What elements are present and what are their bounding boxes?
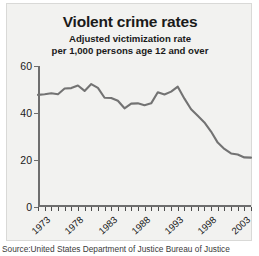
- x-axis-tick-label: 1983: [96, 214, 119, 236]
- x-axis-tick: [224, 207, 225, 211]
- x-axis-tick: [65, 207, 66, 211]
- x-axis-tick-label: 1973: [29, 214, 52, 236]
- chart-subtitle-line-1: Adjusted victimization rate: [7, 33, 253, 45]
- x-axis-tick: [138, 207, 139, 211]
- x-axis-tick: [191, 207, 192, 211]
- x-axis-tick: [105, 207, 106, 211]
- x-axis-tick: [125, 207, 126, 211]
- x-axis-tick: [171, 207, 172, 211]
- x-axis-tick: [98, 207, 99, 211]
- x-axis-tick: [131, 207, 132, 211]
- x-axis-tick-label: 1998: [196, 214, 219, 236]
- x-axis-tick: [231, 207, 232, 211]
- plot-area: 0204060 1973197819831988199319982003: [38, 66, 251, 207]
- x-axis-tick: [85, 207, 86, 211]
- x-axis-tick: [218, 207, 219, 211]
- x-axis-tick: [211, 207, 212, 211]
- y-axis-tick-label: 20: [20, 154, 32, 166]
- x-axis-tick: [251, 207, 252, 211]
- x-axis-tick: [238, 207, 239, 211]
- y-axis-tick-label: 0: [26, 201, 32, 213]
- x-axis-tick: [38, 207, 39, 211]
- chart-title: Violent crime rates: [7, 13, 253, 31]
- x-axis-tick: [78, 207, 79, 211]
- chart-subtitle: Adjusted victimization rate per 1,000 pe…: [7, 33, 253, 56]
- x-axis-tick: [204, 207, 205, 211]
- x-axis-tick: [118, 207, 119, 211]
- x-axis-tick: [71, 207, 72, 211]
- x-axis-tick: [58, 207, 59, 211]
- x-axis-tick: [158, 207, 159, 211]
- x-axis-tick: [164, 207, 165, 211]
- x-axis-tick-label: 2003: [229, 214, 252, 236]
- chart-subtitle-line-2: per 1,000 persons age 12 and over: [7, 45, 253, 57]
- x-axis-tick-label: 1988: [129, 214, 152, 236]
- y-axis-tick-label: 40: [20, 107, 32, 119]
- x-axis-tick: [45, 207, 46, 211]
- x-axis-tick: [111, 207, 112, 211]
- x-axis-tick-label: 1978: [62, 214, 85, 236]
- x-axis-tick: [184, 207, 185, 211]
- x-axis-tick: [151, 207, 152, 211]
- x-axis-tick: [244, 207, 245, 211]
- x-axis-tick-label: 1993: [162, 214, 185, 236]
- violent-crime-rate-line: [38, 66, 251, 207]
- x-axis-tick: [145, 207, 146, 211]
- x-axis-tick: [51, 207, 52, 211]
- x-axis-tick: [198, 207, 199, 211]
- x-axis-tick: [91, 207, 92, 211]
- chart-figure: Violent crime rates Adjusted victimizati…: [6, 3, 252, 241]
- x-axis-tick: [178, 207, 179, 211]
- source-note: Source:United States Department of Justi…: [2, 244, 259, 254]
- y-axis-tick-label: 60: [20, 60, 32, 72]
